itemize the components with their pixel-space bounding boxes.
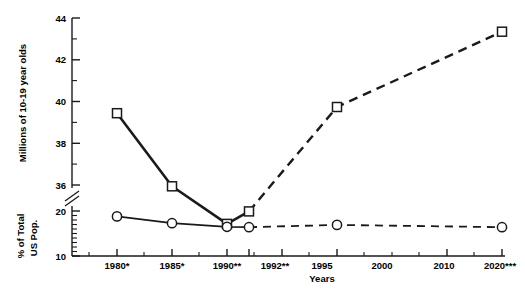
x-tick-label-1992: 1992** [261,260,290,271]
series-millions-10-19 [113,27,507,228]
y-tick-label-44: 44 [55,13,66,24]
y-tick-label-10: 10 [55,251,66,262]
data-point-marker [332,220,341,229]
data-point-marker [112,212,121,221]
chart-container: 44 42 40 38 36 20 10 1980* 1985* 1990** … [0,0,525,299]
y-tick-label-38: 38 [55,138,66,149]
x-axis-title: Years [309,273,334,284]
series-pct-markers [112,212,506,232]
x-tick-label-1980: 1980* [105,260,130,271]
series-millions-dashed-segment [249,32,502,212]
data-point-marker [245,207,254,216]
data-point-marker [168,182,177,191]
series-millions-solid-segment [117,113,249,224]
x-tick-label-2000: 2000 [371,260,392,271]
x-tick-label-1990: 1990** [213,260,242,271]
y-axis-title-lower-line1: % of Total [15,214,26,259]
x-tick-label-1995: 1995 [311,260,333,271]
x-tick-label-2010: 2010 [433,260,454,271]
y-tick-label-20: 20 [55,206,66,217]
y-tick-label-36: 36 [55,180,66,191]
series-pct-total-us-pop [112,212,506,232]
data-point-marker [167,219,176,228]
x-tick-label-1985: 1985* [160,260,185,271]
series-pct-dashed-segment [249,225,502,227]
x-ticks [89,249,502,256]
data-point-marker [333,103,342,112]
y-tick-label-40: 40 [55,96,66,107]
y-minor-ticks-lower [72,216,77,252]
y-axis-title-upper: Millions of 10-19 year olds [17,44,28,162]
y-axis-title-lower-line2: US Pop. [28,220,39,256]
data-point-marker [222,222,231,231]
data-point-marker [498,27,507,36]
data-point-marker [113,109,122,118]
data-point-marker [244,223,253,232]
y-ticks-upper [72,18,80,185]
y-tick-label-42: 42 [55,54,66,65]
x-tick-label-2020: 2020*** [484,260,517,271]
line-chart: 44 42 40 38 36 20 10 1980* 1985* 1990** … [0,0,525,299]
data-point-marker [497,223,506,232]
axis-break-marker [65,191,79,206]
